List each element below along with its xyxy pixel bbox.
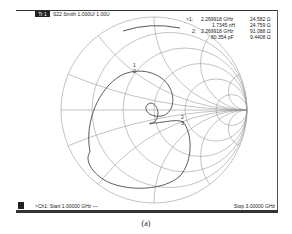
marker-1-id: >1:	[186, 17, 193, 23]
trace-badge[interactable]: Tr 1	[35, 11, 50, 17]
s22-trace	[88, 71, 190, 188]
trace-title: S22 Smith 1.000U/ 1.00U	[53, 11, 110, 17]
figure-caption: (a)	[0, 219, 292, 228]
bottom-bar	[16, 210, 278, 213]
marker-2-id: 2:	[192, 29, 196, 35]
channel-indicator[interactable]	[18, 202, 24, 209]
sweep-start: >Ch1: Start 1.00000 GHz —	[35, 203, 98, 209]
sweep-stop: Stop 3.00000 GHz	[234, 203, 275, 209]
marker-2-sub: 80.354 pF	[211, 35, 234, 41]
smith-chart: 1 2 2 3	[0, 0, 292, 234]
marker-3-label: 3	[181, 120, 184, 126]
marker-2-value2: 9.4408 Ω	[250, 35, 270, 41]
marker-2-label-top: 2	[133, 68, 136, 74]
